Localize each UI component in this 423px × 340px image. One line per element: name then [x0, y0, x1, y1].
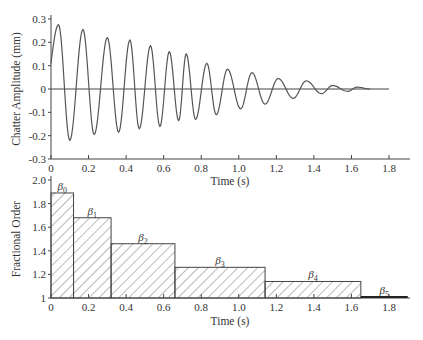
y-tick-label: 0.1: [32, 60, 46, 72]
x-tick-label: 0.2: [82, 301, 96, 313]
y-tick-label: 1.2: [32, 268, 46, 280]
bar-beta-3: [175, 267, 265, 298]
y-tick-label: -0.3: [29, 153, 47, 165]
x-tick-label: 0.4: [119, 301, 133, 313]
chart-figure: -0.3-0.2-0.100.10.20.300.20.40.60.81.01.…: [0, 0, 423, 340]
y-tick-label: 0.3: [32, 13, 46, 25]
x-tick-label: 0.8: [194, 162, 208, 174]
x-tick-label: 1.8: [382, 301, 396, 313]
y-tick-label: 0.2: [32, 36, 46, 48]
y-tick-label: -0.2: [29, 130, 46, 142]
bar-beta-4: [265, 281, 361, 298]
x-tick-label: 0.4: [119, 162, 133, 174]
y-tick-label: 1: [41, 292, 47, 304]
bottom-x-axis-label: Time (s): [211, 315, 250, 328]
bar-beta-2: [111, 244, 175, 298]
y-tick-label: 0: [41, 83, 47, 95]
y-tick-label: -0.1: [29, 106, 46, 118]
bottom-y-axis-label: Fractional Order: [10, 201, 22, 277]
x-tick-label: 1.8: [382, 162, 396, 174]
x-tick-label: 1.4: [307, 162, 321, 174]
x-tick-label: 0: [48, 301, 54, 313]
x-tick-label: 0.2: [82, 162, 96, 174]
y-tick-label: 1.8: [32, 198, 46, 210]
x-tick-label: 1.4: [307, 301, 321, 313]
x-tick-label: 1.0: [232, 162, 246, 174]
chatter-amplitude-plot: -0.3-0.2-0.100.10.20.300.20.40.60.81.01.…: [29, 13, 410, 174]
x-tick-label: 0.6: [157, 162, 171, 174]
y-tick-label: 1.4: [32, 245, 46, 257]
bar-beta-1: [74, 218, 112, 298]
x-tick-label: 1.6: [345, 301, 359, 313]
x-tick-label: 1.6: [345, 162, 359, 174]
x-tick-label: 0: [48, 162, 54, 174]
chatter-curve: [51, 25, 370, 141]
x-tick-label: 1.2: [269, 301, 283, 313]
x-tick-label: 0.8: [194, 301, 208, 313]
y-tick-label: 1.6: [32, 221, 46, 233]
x-tick-label: 1.0: [232, 301, 246, 313]
bar-beta-0: [51, 193, 74, 298]
top-x-axis-label: Time (s): [211, 175, 250, 188]
y-tick-label: 2.0: [32, 174, 46, 186]
x-tick-label: 1.2: [269, 162, 283, 174]
top-y-axis-label: Chatter Amplitude (mm): [10, 32, 23, 146]
fractional-order-plot: 11.21.41.61.82.000.20.40.60.81.01.21.41.…: [32, 174, 410, 313]
x-tick-label: 0.6: [157, 301, 171, 313]
